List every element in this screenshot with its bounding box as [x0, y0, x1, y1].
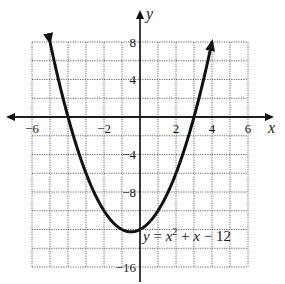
y-tick-label: 4: [130, 72, 137, 87]
y-axis-label: y: [144, 5, 154, 23]
x-tick-label: −2: [97, 121, 111, 136]
equation-label: y = x2 + x − 12: [141, 226, 231, 244]
parabola-curve: [50, 42, 212, 232]
x-tick-label: 6: [245, 121, 252, 136]
x-tick-label: −6: [25, 121, 39, 136]
y-tick-label: −16: [116, 260, 137, 275]
x-axis-label: x: [267, 119, 275, 136]
x-tick-label: 2: [173, 121, 180, 136]
y-tick-label: 8: [130, 35, 137, 50]
y-tick-label: −8: [122, 185, 136, 200]
y-tick-label: −4: [122, 147, 136, 162]
parabola-chart: x y −6 −2 2 4 6 8 4 −4 −8 −16 y = x2 + x…: [0, 0, 285, 284]
x-tick-label: 4: [209, 121, 216, 136]
